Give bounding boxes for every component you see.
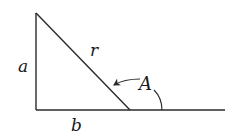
- angle-arrow: [114, 79, 140, 85]
- label-r: r: [90, 40, 99, 60]
- label-a: a: [18, 56, 28, 76]
- triangle-diagram: a r b A: [0, 0, 235, 138]
- diagram-svg: a r b A: [0, 0, 235, 138]
- hypotenuse-r-line: [36, 13, 130, 110]
- angle-arc: [154, 90, 162, 110]
- label-b: b: [71, 115, 82, 135]
- label-angle-A: A: [137, 73, 152, 94]
